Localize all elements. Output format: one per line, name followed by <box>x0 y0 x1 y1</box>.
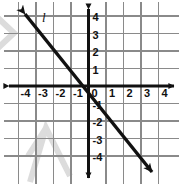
x-tick-label: -4 <box>21 87 32 99</box>
x-tick-label: -1 <box>73 87 83 99</box>
x-tick-label: 4 <box>162 87 169 99</box>
x-tick-label: -3 <box>38 87 48 99</box>
y-tick-label: -3 <box>93 134 103 146</box>
x-tick-label: 1 <box>109 87 115 99</box>
x-tick-label: 3 <box>144 87 150 99</box>
coordinate-plane-figure: -4 -3 -2 -1 0 1 2 3 4 4 3 2 1 -1 -2 -3 -… <box>0 0 183 186</box>
x-tick-label: -2 <box>56 87 66 99</box>
y-tick-label: 3 <box>93 29 99 41</box>
x-axis-tick-labels: -4 -3 -2 -1 0 1 2 3 4 <box>21 87 169 99</box>
y-tick-label: 4 <box>93 11 100 23</box>
y-tick-label: -4 <box>93 151 104 163</box>
line-label-l: l <box>42 10 46 25</box>
y-tick-label: 2 <box>93 46 99 58</box>
y-tick-label: 1 <box>93 64 99 76</box>
coordinate-plane-svg: -4 -3 -2 -1 0 1 2 3 4 4 3 2 1 -1 -2 -3 -… <box>0 0 183 186</box>
y-tick-label: -2 <box>93 116 103 128</box>
watermark-layer <box>0 16 70 182</box>
x-tick-label: 2 <box>127 87 133 99</box>
